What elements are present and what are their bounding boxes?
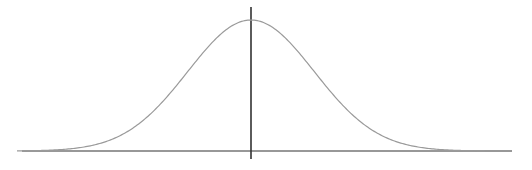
normal-distribution-chart	[0, 0, 532, 170]
